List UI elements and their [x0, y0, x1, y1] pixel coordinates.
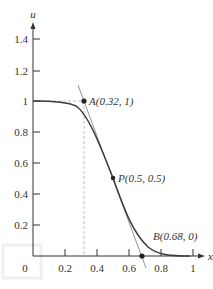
point-B-label: B(0.68, 0): [153, 230, 198, 243]
x-tick-label: 0.8: [154, 262, 168, 274]
point-P-label: P(0.5, 0.5): [117, 172, 165, 185]
y-tick-label: 1.4: [14, 33, 28, 45]
point-A-label: A(0.32, 1): [88, 95, 134, 108]
y-tick-label: 0.6: [14, 157, 28, 169]
y-axis-arrow-icon: [31, 22, 36, 29]
y-tick-label: 0.8: [14, 126, 28, 138]
y-tick-label: 1.2: [14, 65, 28, 77]
x-tick-label: 0: [22, 262, 28, 274]
x-tick-label: 1: [190, 262, 196, 274]
figure: 0.2 0.4 0.6 0.8 1 1.2 1.4 0 0.2 0.4 0.6 …: [0, 0, 213, 289]
point-A: [81, 98, 86, 103]
x-tick-label: 0.2: [58, 262, 72, 274]
y-tick-label: 1: [23, 95, 29, 107]
y-ticks: [33, 39, 40, 225]
x-tick-label: 0.6: [122, 262, 136, 274]
x-axis-label: x: [207, 250, 213, 262]
y-tick-label: 0.2: [14, 219, 28, 231]
x-axis-arrow-icon: [198, 254, 205, 259]
y-axis-label: u: [30, 8, 36, 20]
y-tick-label: 0.4: [14, 188, 28, 200]
point-B: [139, 253, 144, 258]
point-P: [111, 176, 115, 180]
x-tick-label: 0.4: [90, 262, 104, 274]
